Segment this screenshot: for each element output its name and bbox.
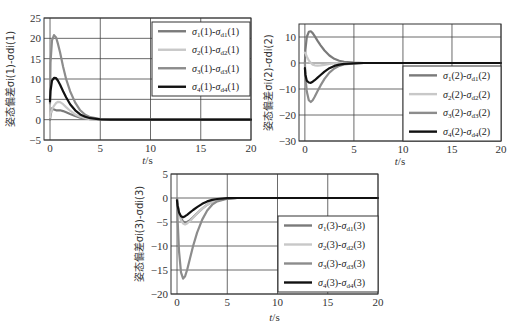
y-tick-label: 5 xyxy=(163,168,169,180)
legend: σ1(3)-σd1(3)σ2(3)-σd2(3)σ3(3)-σd3(3)σ4(3… xyxy=(278,216,378,292)
x-tick-label: 15 xyxy=(322,296,334,308)
x-tick-label: 0 xyxy=(174,296,180,308)
y-tick-label: 15 xyxy=(30,53,42,65)
y-tick-label: −5 xyxy=(156,216,168,228)
x-axis-label: t/s xyxy=(269,311,279,323)
figure-canvas: 05101520−50510152025t/s姿态偏差σi(1)-σdi(1)σ… xyxy=(0,0,518,333)
x-tick-label: 0 xyxy=(47,142,53,154)
y-tick-label: 10 xyxy=(285,31,297,43)
x-tick-label: 20 xyxy=(246,142,258,154)
y-tick-label: 10 xyxy=(30,73,42,85)
y-tick-label: −10 xyxy=(279,83,297,95)
x-tick-label: 5 xyxy=(351,143,357,155)
y-tick-label: −15 xyxy=(151,264,169,276)
x-axis-label: t/s xyxy=(142,154,152,166)
x-tick-label: 20 xyxy=(496,143,508,155)
x-tick-label: 10 xyxy=(272,296,284,308)
y-tick-label: −20 xyxy=(279,109,297,121)
x-axis-label: t/s xyxy=(395,155,405,167)
chart-sigma-3: 05101520−20−15−10−505t/s姿态偏差σi(3)-σdi(3)… xyxy=(133,168,384,323)
x-tick-label: 5 xyxy=(98,142,104,154)
y-tick-label: 0 xyxy=(36,114,42,126)
x-tick-label: 5 xyxy=(225,296,231,308)
x-tick-label: 15 xyxy=(195,142,207,154)
legend: σ1(1)-σd1(1)σ2(1)-σd2(1)σ3(1)-σd3(1)σ4(1… xyxy=(152,22,250,96)
x-tick-label: 15 xyxy=(446,143,458,155)
y-tick-label: 25 xyxy=(30,12,42,24)
y-axis-label: 姿态偏差σi(1)-σdi(1) xyxy=(4,31,16,128)
y-tick-label: 20 xyxy=(30,32,42,44)
chart-sigma-2: 05101520−30−20−10010t/s姿态偏差σi(2)-σdi(2)σ… xyxy=(262,24,507,167)
y-tick-label: 0 xyxy=(291,57,297,69)
x-tick-label: 10 xyxy=(397,143,409,155)
legend: σ1(2)-σd1(2)σ2(2)-σd2(2)σ3(2)-σd3(2)σ4(2… xyxy=(403,66,501,141)
x-tick-label: 20 xyxy=(373,296,385,308)
y-axis-label: 姿态偏差σi(2)-σdi(2) xyxy=(262,34,274,131)
x-tick-label: 10 xyxy=(145,142,157,154)
y-tick-label: −5 xyxy=(29,134,41,146)
y-tick-label: 0 xyxy=(163,192,169,204)
y-tick-label: −20 xyxy=(151,288,169,300)
y-tick-label: −10 xyxy=(151,240,169,252)
y-tick-label: −30 xyxy=(279,135,297,147)
chart-sigma-1: 05101520−50510152025t/s姿态偏差σi(1)-σdi(1)σ… xyxy=(4,12,257,166)
y-tick-label: 5 xyxy=(36,93,42,105)
y-axis-label: 姿态偏差σi(3)-σdi(3) xyxy=(133,186,145,283)
x-tick-label: 0 xyxy=(302,143,308,155)
